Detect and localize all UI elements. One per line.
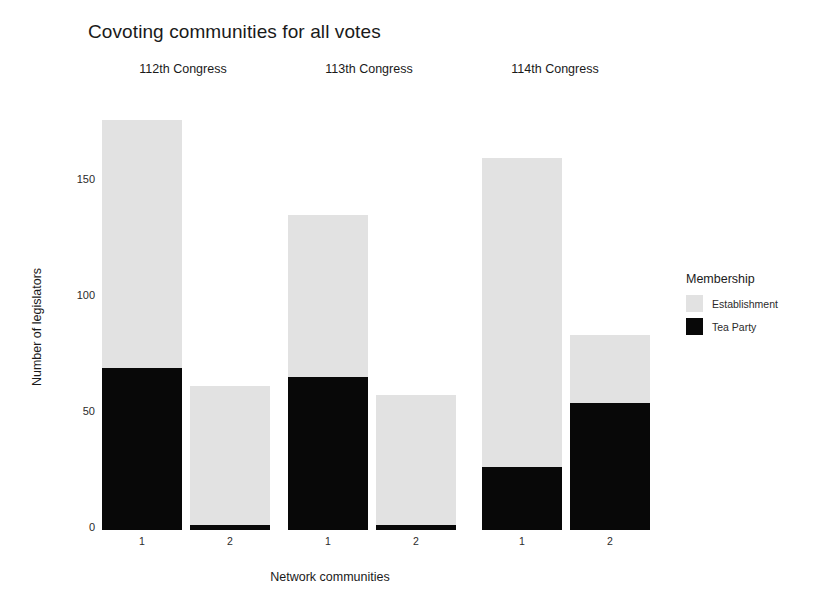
bar-segment-establishment xyxy=(570,335,650,403)
x-tick-label-113th-2: 2 xyxy=(376,535,456,547)
legend-label-tea-party: Tea Party xyxy=(712,321,756,333)
bar-segment-tea-party xyxy=(376,525,456,530)
bar-segment-establishment xyxy=(288,215,368,377)
x-tick-label-113th-1: 1 xyxy=(288,535,368,547)
chart-title: Covoting communities for all votes xyxy=(88,21,381,43)
legend-swatch-tea-party-icon xyxy=(686,318,703,335)
bar-segment-tea-party xyxy=(190,525,270,530)
chart-container: Covoting communities for all votes 112th… xyxy=(0,0,825,602)
y-tick-label-100: 100 xyxy=(49,289,95,301)
y-axis-title: Number of legislators xyxy=(30,227,44,427)
x-tick-label-114th-1: 1 xyxy=(482,535,562,547)
y-axis-ticks: 0 50 100 150 xyxy=(49,0,95,602)
legend-item-establishment[interactable]: Establishment xyxy=(686,295,821,312)
facet-label-112th-congress: 112th Congress xyxy=(92,62,274,76)
facet-panel-112th-congress xyxy=(100,95,286,530)
bar-segment-establishment xyxy=(190,386,270,525)
facet-panel-113th-congress xyxy=(286,95,472,530)
bar-segment-tea-party xyxy=(482,467,562,530)
bar-segment-tea-party xyxy=(570,403,650,530)
x-tick-label-114th-2: 2 xyxy=(570,535,650,547)
legend-item-tea-party[interactable]: Tea Party xyxy=(686,318,821,335)
y-tick-label-0: 0 xyxy=(49,521,95,533)
y-tick-label-50: 50 xyxy=(49,405,95,417)
x-tick-label-112th-1: 1 xyxy=(102,535,182,547)
x-axis-title: Network communities xyxy=(0,570,660,584)
legend-swatch-establishment-icon xyxy=(686,295,703,312)
bar-segment-establishment xyxy=(376,395,456,525)
facet-panel-114th-congress xyxy=(472,95,658,530)
bar-segment-tea-party xyxy=(102,368,182,530)
legend: Membership Establishment Tea Party xyxy=(686,272,821,341)
bar-segment-tea-party xyxy=(288,377,368,530)
facet-label-114th-congress: 114th Congress xyxy=(464,62,646,76)
x-tick-label-112th-2: 2 xyxy=(190,535,270,547)
bar-segment-establishment xyxy=(482,158,562,467)
facet-label-113th-congress: 113th Congress xyxy=(278,62,460,76)
y-tick-label-150: 150 xyxy=(49,173,95,185)
legend-label-establishment: Establishment xyxy=(712,298,778,310)
bar-segment-establishment xyxy=(102,120,182,368)
legend-title: Membership xyxy=(686,272,821,286)
